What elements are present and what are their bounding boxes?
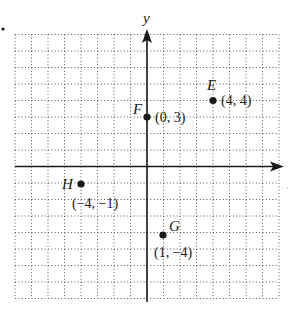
point-coordinates: (0, 3) xyxy=(155,110,186,126)
point-name: F xyxy=(132,101,143,117)
point-G: G (1, −4) xyxy=(154,218,193,261)
point-coordinates: (1, −4) xyxy=(154,245,193,261)
point-name: H xyxy=(61,176,74,192)
stray-mark xyxy=(1,27,4,30)
point-H: H (−4, −1) xyxy=(61,176,118,212)
point-name: E xyxy=(206,77,216,93)
point-dot xyxy=(209,97,216,104)
y-axis-label: y xyxy=(141,10,150,26)
stray-mark xyxy=(287,187,288,189)
point-dot xyxy=(159,231,166,238)
point-F: F (0, 3) xyxy=(132,101,186,126)
point-name: G xyxy=(169,218,180,234)
point-dot xyxy=(77,180,84,187)
point-coordinates: (4, 4) xyxy=(221,93,252,109)
point-dot xyxy=(143,113,150,120)
point-coordinates: (−4, −1) xyxy=(72,196,118,212)
coordinate-plane: y E (4, 4) F (0, 3) H (−4, −1) G (1, −4) xyxy=(0,0,288,312)
